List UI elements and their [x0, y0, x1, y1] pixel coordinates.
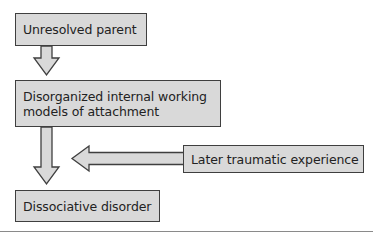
node-label: Dissociative disorder: [23, 199, 151, 214]
node-unresolved-parent: Unresolved parent: [15, 13, 147, 46]
node-disorganized-internal-working-models: Disorganized internal working models of …: [15, 80, 221, 127]
node-later-traumatic-experience: Later traumatic experience: [183, 145, 364, 173]
node-label-line-2: models of attachment: [23, 104, 207, 119]
flow-diagram: Unresolved parent Disorganized internal …: [0, 0, 377, 237]
node-label: Unresolved parent: [23, 22, 137, 37]
long-down-arrow-icon: [34, 127, 59, 184]
node-label-line-1: Disorganized internal working: [23, 89, 207, 104]
bottom-divider: [0, 231, 373, 232]
left-arrow-icon: [72, 146, 184, 171]
down-arrow-icon: [34, 46, 59, 75]
node-dissociative-disorder: Dissociative disorder: [15, 190, 160, 222]
node-label: Later traumatic experience: [191, 152, 359, 167]
